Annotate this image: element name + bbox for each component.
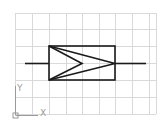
drawing-canvas[interactable] <box>0 0 168 129</box>
ucs-y-label: Y <box>17 84 23 93</box>
ucs-x-label: X <box>40 109 46 118</box>
